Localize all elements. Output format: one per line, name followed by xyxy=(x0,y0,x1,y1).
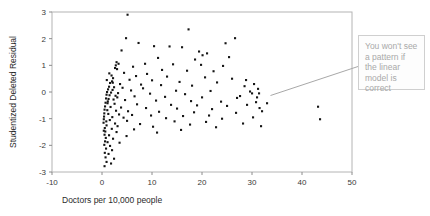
scatter-point xyxy=(124,99,126,101)
scatter-point xyxy=(113,158,115,160)
scatter-point xyxy=(190,100,192,102)
scatter-point xyxy=(106,94,108,96)
scatter-point xyxy=(104,134,106,136)
scatter-point xyxy=(249,90,251,92)
scatter-point xyxy=(235,112,237,114)
scatter-point xyxy=(151,79,153,81)
scatter-point xyxy=(201,96,203,98)
scatter-point xyxy=(106,161,108,163)
scatter-point xyxy=(129,79,131,81)
scatter-point xyxy=(251,92,253,94)
scatter-point xyxy=(103,130,105,132)
y-tick-label: 0 xyxy=(42,88,47,97)
scatter-point xyxy=(165,117,167,119)
scatter-point xyxy=(144,63,146,65)
scatter-point xyxy=(205,121,207,123)
scatter-point xyxy=(142,87,144,89)
scatter-point xyxy=(118,113,120,115)
scatter-point xyxy=(181,46,183,48)
scatter-point xyxy=(153,45,155,47)
scatter-point xyxy=(112,82,114,84)
scatter-point xyxy=(244,85,246,87)
scatter-point xyxy=(257,88,259,90)
scatter-point xyxy=(221,118,223,120)
scatter-point xyxy=(103,144,105,146)
scatter-point xyxy=(127,14,129,16)
scatter-point xyxy=(200,64,202,66)
scatter-point xyxy=(255,101,257,103)
scatter-point xyxy=(191,85,193,87)
scatter-point xyxy=(145,107,147,109)
scatter-point xyxy=(111,128,113,130)
scatter-point xyxy=(117,92,119,94)
scatter-point xyxy=(164,96,166,98)
scatter-point xyxy=(213,70,215,72)
scatter-point xyxy=(215,126,217,128)
scatter-point xyxy=(103,112,105,114)
scatter-point xyxy=(132,66,134,68)
scatter-point xyxy=(216,81,218,83)
scatter-point xyxy=(206,52,208,54)
scatter-point xyxy=(105,148,107,150)
scatter-point xyxy=(110,92,112,94)
scatter-point xyxy=(127,110,129,112)
scatter-point xyxy=(110,162,112,164)
scatter-point xyxy=(258,92,260,94)
scatter-point xyxy=(222,65,224,67)
scatter-point xyxy=(140,84,142,86)
plot-frame xyxy=(52,12,352,172)
scatter-point xyxy=(133,128,135,130)
scatter-point xyxy=(116,131,118,133)
scatter-point xyxy=(261,110,263,112)
scatter-point xyxy=(172,63,174,65)
scatter-point xyxy=(119,142,121,144)
scatter-point xyxy=(228,56,230,58)
scatter-point xyxy=(119,83,121,85)
scatter-point xyxy=(136,103,138,105)
scatter-point xyxy=(149,93,151,95)
scatter-point xyxy=(253,83,255,85)
x-tick-label: 10 xyxy=(148,178,157,187)
scatter-point xyxy=(109,82,111,84)
scatter-point xyxy=(259,107,261,109)
scatter-point xyxy=(108,98,110,100)
x-tick-label: 0 xyxy=(100,178,105,187)
scatter-point xyxy=(106,91,108,93)
scatter-point xyxy=(111,149,113,151)
scatter-point xyxy=(123,72,125,74)
scatter-point xyxy=(169,45,171,47)
scatter-point xyxy=(156,132,158,134)
scatter-point xyxy=(106,109,108,111)
scatter-point xyxy=(112,89,114,91)
x-tick-label: 50 xyxy=(348,178,357,187)
scatter-point xyxy=(103,118,105,120)
scatter-point xyxy=(109,119,111,121)
scatter-point xyxy=(104,127,106,129)
x-tick-label: 40 xyxy=(298,178,307,187)
scatter-point xyxy=(121,49,123,51)
scatter-point xyxy=(202,54,204,56)
scatter-point xyxy=(245,79,247,81)
scatter-point xyxy=(123,117,125,119)
scatter-point xyxy=(198,50,200,52)
scatter-point xyxy=(114,122,116,124)
scatter-point xyxy=(252,116,254,118)
scatter-point xyxy=(104,152,106,154)
y-tick-label: -1 xyxy=(39,115,47,124)
scatter-point xyxy=(104,165,106,167)
scatter-point xyxy=(103,116,105,118)
scatter-point xyxy=(122,87,124,89)
scatter-point xyxy=(104,140,106,142)
y-tick-label: 1 xyxy=(42,61,47,70)
scatter-point xyxy=(103,122,105,124)
scatter-point xyxy=(155,100,157,102)
scatter-point xyxy=(146,73,148,75)
scatter-point xyxy=(108,153,110,155)
scatter-point xyxy=(115,110,117,112)
y-tick-label: -2 xyxy=(39,141,47,150)
scatter-point xyxy=(260,125,262,127)
scatter-point xyxy=(182,115,184,117)
scatter-point xyxy=(193,111,195,113)
scatter-point xyxy=(246,104,248,106)
scatter-point xyxy=(112,138,114,140)
